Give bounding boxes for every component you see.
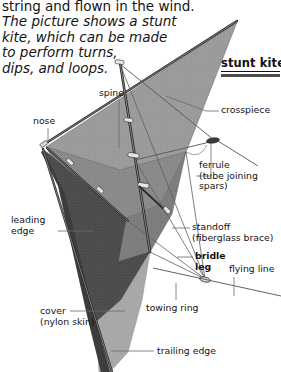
ferrule-curve	[186, 145, 207, 155]
intro-italic-line-3: to perform turns,	[2, 45, 192, 61]
label-cover-line-2: (nylon skin)	[40, 317, 94, 328]
page-title: stunt kite	[221, 56, 281, 70]
label-nose: nose	[33, 116, 55, 127]
label-towing-ring: towing ring	[146, 303, 198, 314]
label-spine: spine	[99, 88, 124, 99]
label-ferrule-line-3: spars)	[199, 181, 258, 192]
intro-italic-line-4: dips, and loops.	[2, 61, 192, 77]
label-standoff-line-1: standoff	[192, 222, 273, 233]
ferrule-fitting	[206, 137, 220, 144]
label-cover-line-1: cover	[40, 306, 94, 317]
label-leading-edge: leading edge	[11, 215, 45, 236]
label-bridle-leg-line-1: bridle	[195, 251, 226, 262]
label-leading-edge-line-2: edge	[11, 226, 45, 237]
intro-paragraph: string and flown in the wind. The pictur…	[2, 0, 192, 76]
label-ferrule-line-1: ferrule	[199, 160, 258, 171]
label-trailing-edge: trailing edge	[157, 346, 216, 357]
diagram-stage: string and flown in the wind. The pictur…	[0, 0, 281, 372]
intro-italic-line-2: kite, which can be made	[2, 30, 192, 46]
title-rule-thin	[221, 71, 280, 72]
label-cover: cover (nylon skin)	[40, 306, 94, 327]
label-flying-line: flying line	[229, 264, 274, 275]
label-ferrule: ferrule (tube joining spars)	[199, 160, 258, 192]
label-standoff: standoff (fiberglass brace)	[192, 222, 273, 243]
label-leading-edge-line-1: leading	[11, 215, 45, 226]
intro-line-1: string and flown in the wind.	[2, 0, 192, 14]
title-rule-thick	[221, 74, 280, 77]
label-standoff-line-2: (fiberglass brace)	[192, 233, 273, 244]
label-bridle-leg-line-2: leg	[195, 262, 226, 273]
label-crosspiece: crosspiece	[221, 105, 270, 116]
figure-title-block: stunt kite	[221, 56, 281, 77]
intro-italic-line-1: The picture shows a stunt	[2, 14, 192, 30]
label-bridle-leg: bridle leg	[195, 251, 226, 272]
